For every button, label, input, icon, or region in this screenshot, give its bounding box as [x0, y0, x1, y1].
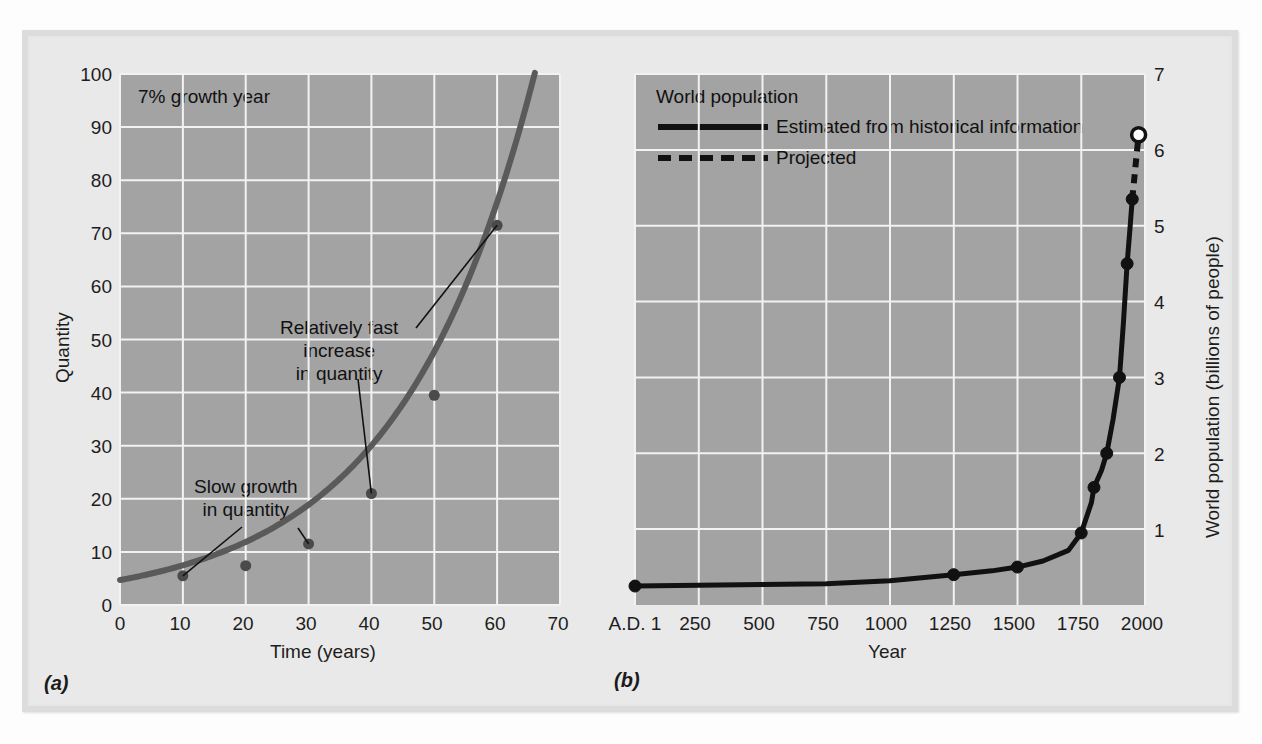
chart-b-gridlines	[635, 74, 1145, 605]
chart-b-subfigure-label: (b)	[614, 669, 640, 692]
chart-b: 7 6 5 4 3 2 1 A.D. 1 250 500 750 1000 12…	[600, 38, 1230, 704]
figure-panel-inner: 100 90 80 70 60 50 40 30 20 10 0 0 10 20…	[30, 38, 1230, 704]
chart-b-curve-estimated	[635, 199, 1132, 586]
chart-b-curve-projected	[1132, 135, 1138, 199]
chart-a-gridlines	[120, 74, 560, 605]
figure-panel: 100 90 80 70 60 50 40 30 20 10 0 0 10 20…	[22, 30, 1238, 712]
chart-a-graphics	[30, 38, 600, 704]
chart-a: 100 90 80 70 60 50 40 30 20 10 0 0 10 20…	[30, 38, 600, 704]
chart-a-leader-lines	[183, 225, 497, 576]
chart-b-markers	[629, 128, 1146, 592]
chart-a-markers	[177, 220, 502, 581]
chart-a-subfigure-label: (a)	[44, 672, 68, 695]
figure-root: 100 90 80 70 60 50 40 30 20 10 0 0 10 20…	[0, 0, 1262, 744]
chart-b-graphics	[600, 38, 1230, 704]
